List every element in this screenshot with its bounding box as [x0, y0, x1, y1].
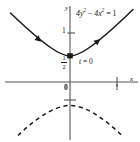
- parameter-value: 0: [89, 57, 93, 66]
- fraction-numerator: 1: [62, 55, 65, 62]
- x-axis-label: x: [130, 76, 133, 83]
- vertex-fraction-one-half: 1 2: [61, 55, 67, 71]
- fraction-denominator: 2: [62, 64, 65, 71]
- vertex-point-marker: [67, 53, 73, 58]
- equation-label: 4y2 − 4x2 = 1: [76, 8, 116, 18]
- y-axis-label: y: [65, 5, 68, 12]
- y-axis-tick-label-one: 1: [62, 27, 66, 35]
- x-axis-tick-label-one: 1: [115, 84, 119, 92]
- equation-rhs: 1: [113, 9, 117, 18]
- origin-label: 0: [64, 84, 68, 92]
- graph-canvas: [0, 0, 140, 142]
- hyperbola-figure: 4y2 − 4x2 = 1 y x 0 1 1 1 2 t = 0: [0, 0, 140, 142]
- parameter-annotation: t = 0: [79, 58, 93, 66]
